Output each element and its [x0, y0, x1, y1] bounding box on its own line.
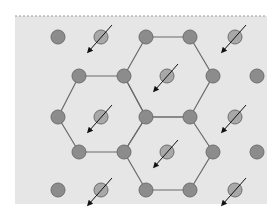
lattice-site	[72, 145, 86, 159]
lattice-site	[139, 183, 153, 197]
lattice-site	[51, 30, 65, 44]
node-circle	[183, 183, 197, 197]
node-circle	[206, 145, 220, 159]
node-circle	[117, 69, 131, 83]
node-circle	[206, 69, 220, 83]
node-circle	[139, 183, 153, 197]
lattice-site	[139, 30, 153, 44]
node-circle	[250, 145, 264, 159]
lattice-site	[72, 69, 86, 83]
node-circle	[51, 110, 65, 124]
node-circle	[72, 69, 86, 83]
node-circle	[117, 145, 131, 159]
lattice-site	[250, 145, 264, 159]
lattice-site	[183, 30, 197, 44]
node-circle	[183, 30, 197, 44]
node-circle	[139, 110, 153, 124]
hexagonal-lattice-diagram	[0, 0, 278, 220]
lattice-site	[183, 110, 197, 124]
lattice-site	[206, 69, 220, 83]
lattice-site	[250, 69, 264, 83]
lattice-site	[51, 183, 65, 197]
node-circle	[51, 183, 65, 197]
node-circle	[51, 30, 65, 44]
node-circle	[183, 110, 197, 124]
node-circle	[72, 145, 86, 159]
lattice-site	[206, 145, 220, 159]
node-circle	[250, 69, 264, 83]
lattice-site	[117, 69, 131, 83]
lattice-site	[51, 110, 65, 124]
lattice-site	[117, 145, 131, 159]
node-circle	[139, 30, 153, 44]
lattice-site	[183, 183, 197, 197]
lattice-site	[139, 110, 153, 124]
